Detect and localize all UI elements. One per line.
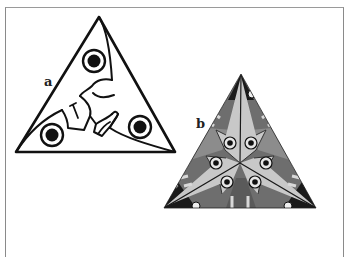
panel-a-arc-1	[93, 93, 114, 97]
panel-b-eye	[221, 176, 233, 188]
panel-a-center-shape-5	[110, 114, 118, 128]
panel-b-label: b	[196, 117, 205, 130]
panel-a-center-shape-1	[80, 79, 112, 96]
panel-a-drawing	[16, 17, 175, 152]
panel-b-eye	[260, 157, 272, 169]
panel-a-label: a	[44, 75, 52, 88]
panel-b-eye	[249, 176, 261, 188]
panel-b-eye	[224, 137, 236, 149]
panel-a-tick-1	[70, 103, 78, 118]
panel-a-eye-top	[83, 50, 105, 72]
panel-b-eye	[245, 137, 257, 149]
panel-b-eye	[210, 157, 222, 169]
panel-a-center-shape-2	[80, 96, 112, 124]
panel-a-eye-right	[129, 116, 151, 138]
panel-b-drawing	[164, 74, 316, 210]
panel-a-eye-left	[41, 124, 63, 146]
